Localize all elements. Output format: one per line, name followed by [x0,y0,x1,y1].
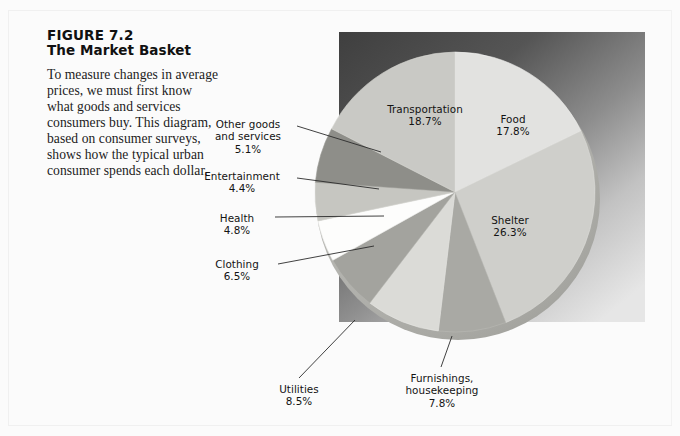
pie-label-entertainment: Entertainment 4.4% [186,170,298,195]
leader-line-furnishings [441,336,452,367]
pie-slices [315,52,595,332]
figure-title: The Market Basket [47,43,222,58]
leader-line-utilities [299,320,355,378]
pie-label-clothing: Clothing 6.5% [196,258,278,283]
pie-label-shelter: Shelter 26.3% [472,214,548,239]
pie-label-utilities: Utilities 8.5% [258,383,340,408]
figure-frame: FIGURE 7.2 The Market Basket To measure … [0,0,680,436]
pie-label-furnishings: Furnishings, housekeeping 7.8% [388,372,496,409]
pie-label-health: Health 4.8% [196,212,278,237]
pie-label-transportation: Transportation 18.7% [373,103,477,128]
pie-label-food: Food 17.8% [483,113,543,138]
figure-number: FIGURE 7.2 [47,28,222,43]
pie-label-other-goods: Other goods and services 5.1% [196,118,300,155]
figure-caption: FIGURE 7.2 The Market Basket To measure … [47,28,222,179]
